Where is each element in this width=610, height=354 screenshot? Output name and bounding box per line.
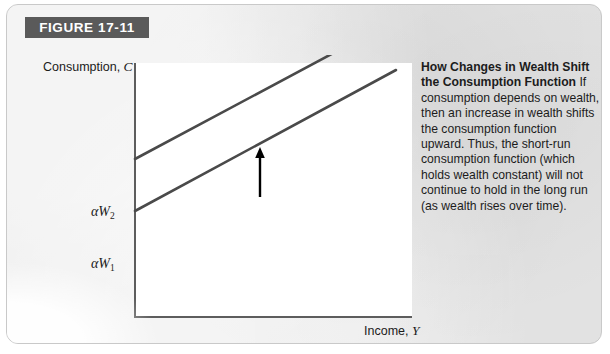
figure-caption-body: If consumption depends on wealth, then a… [421,75,599,212]
consumption-function-chart [128,55,412,319]
x-axis-label-text: Income, [364,324,412,338]
y-intercept-lower-symbol: αW [91,256,110,271]
y-intercept-upper-symbol: αW [91,204,110,219]
x-axis-label-symbol: Y [412,323,420,338]
figure-caption-heading: How Changes in Wealth Shift the Consumpt… [421,60,589,89]
x-axis-label: Income, Y [364,323,419,339]
y-axis-label-text: Consumption, [43,60,124,74]
y-intercept-label-upper: αW2 [91,204,115,220]
figure-caption: How Changes in Wealth Shift the Consumpt… [421,60,601,214]
figure-card: FIGURE 17-11 Consumption, C Income, Y αW… [6,4,602,344]
figure-number-banner: FIGURE 17-11 [25,17,149,38]
y-axis-label: Consumption, C [43,59,133,75]
plot-area [128,55,412,319]
y-intercept-label-lower: αW1 [91,256,115,272]
y-intercept-lower-subscript: 1 [110,263,115,273]
y-intercept-upper-subscript: 2 [110,211,115,221]
plot-background [135,63,412,318]
figure-number-label: FIGURE 17-11 [39,20,135,35]
